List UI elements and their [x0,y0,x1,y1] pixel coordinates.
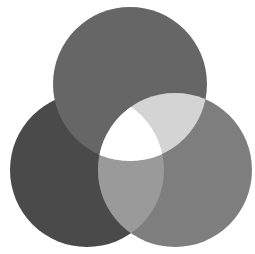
venn-diagram [0,0,255,254]
